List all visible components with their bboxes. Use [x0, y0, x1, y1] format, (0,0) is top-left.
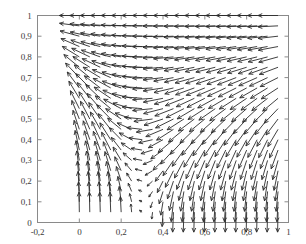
field-arrow — [75, 151, 79, 171]
field-arrow — [143, 160, 152, 164]
field-arrow — [159, 191, 163, 203]
field-arrow — [155, 171, 163, 182]
field-arrow — [185, 67, 204, 72]
field-arrow — [239, 150, 247, 168]
field-arrow — [217, 67, 236, 73]
field-arrow — [264, 191, 268, 211]
field-arrow — [260, 78, 278, 87]
field-arrow — [106, 162, 111, 182]
field-arrow — [270, 140, 279, 158]
field-arrow — [258, 25, 278, 29]
field-arrow — [223, 202, 227, 222]
field-arrow — [250, 78, 268, 87]
y-tick-label: 0,4 — [2, 135, 32, 145]
field-arrow — [133, 66, 153, 70]
field-arrow — [157, 181, 163, 192]
field-arrow — [258, 36, 278, 40]
field-arrow — [258, 14, 278, 18]
field-arrow — [122, 95, 142, 99]
field-arrow — [82, 111, 90, 129]
field-arrow — [238, 67, 257, 74]
field-arrow — [207, 78, 226, 85]
field-arrow — [122, 105, 142, 109]
field-arrow — [249, 67, 268, 74]
field-arrow — [248, 140, 257, 158]
field-arrow — [91, 51, 110, 57]
field-arrow — [139, 200, 142, 202]
field-arrow — [96, 161, 100, 181]
x-tick-label: -0,2 — [31, 227, 44, 237]
field-arrow — [227, 57, 247, 62]
y-tick-label: 0,8 — [2, 52, 32, 62]
field-arrow — [248, 57, 267, 63]
field-arrow — [206, 67, 225, 73]
y-tick-label: 0,9 — [2, 31, 32, 41]
field-arrow — [121, 143, 131, 150]
field-arrow — [147, 181, 152, 186]
field-arrow — [233, 191, 237, 211]
field-arrow — [254, 191, 258, 211]
field-arrow — [186, 78, 205, 84]
field-arrow — [274, 181, 278, 201]
field-arrow — [148, 140, 163, 148]
field-arrow — [104, 99, 121, 108]
field-arrow — [137, 179, 142, 181]
y-tick-label: 0,3 — [2, 155, 32, 165]
x-tick-label: 0 — [77, 227, 81, 237]
field-arrow — [140, 210, 143, 212]
field-arrow — [197, 88, 215, 96]
field-arrow — [101, 33, 121, 37]
field-arrow — [129, 194, 132, 202]
field-arrow — [112, 43, 132, 47]
field-arrow — [218, 88, 236, 97]
x-tick-label: 0,4 — [158, 227, 169, 237]
x-tick-label: 0,8 — [241, 227, 252, 237]
field-arrow — [133, 158, 142, 160]
field-arrow — [191, 202, 195, 222]
y-tick-label: 1 — [2, 11, 32, 21]
field-arrow — [130, 204, 132, 212]
field-arrow — [131, 147, 142, 150]
field-arrow — [112, 34, 132, 38]
field-arrow — [228, 150, 236, 168]
field-arrow — [72, 100, 80, 119]
y-tick-label: 0,2 — [2, 176, 32, 186]
field-arrow — [175, 78, 194, 84]
field-arrow — [102, 81, 121, 88]
field-arrow — [218, 78, 237, 85]
plot-canvas — [0, 0, 306, 244]
field-arrow — [141, 150, 153, 154]
field-arrow — [143, 78, 163, 82]
field-arrow — [201, 191, 205, 211]
field-arrow — [145, 171, 152, 176]
field-arrow — [102, 62, 122, 67]
field-arrow — [243, 191, 247, 211]
y-tick-label: 0 — [2, 218, 32, 228]
field-arrow — [85, 151, 89, 171]
field-arrow — [70, 91, 79, 109]
field-arrow — [91, 42, 111, 47]
field-arrow — [186, 88, 205, 96]
field-arrow — [87, 172, 91, 192]
field-arrow — [161, 150, 174, 164]
field-arrow — [181, 202, 185, 222]
field-arrow — [202, 202, 206, 222]
field-arrow — [135, 169, 142, 171]
field-arrow — [92, 122, 100, 140]
x-tick-label: 0,2 — [116, 227, 127, 237]
field-arrow — [125, 163, 132, 171]
field-arrow — [134, 119, 153, 123]
field-arrow — [86, 161, 90, 181]
field-arrow — [228, 78, 246, 86]
field-arrow — [128, 183, 131, 191]
field-arrow — [228, 67, 247, 73]
field-arrow — [80, 23, 100, 27]
field-arrow — [264, 109, 278, 124]
field-arrow — [222, 191, 226, 211]
field-arrow — [95, 151, 100, 171]
field-arrow — [133, 55, 153, 59]
field-arrow — [100, 123, 111, 140]
field-arrow — [244, 202, 248, 222]
field-arrow — [259, 57, 278, 63]
field-arrow — [102, 71, 121, 77]
